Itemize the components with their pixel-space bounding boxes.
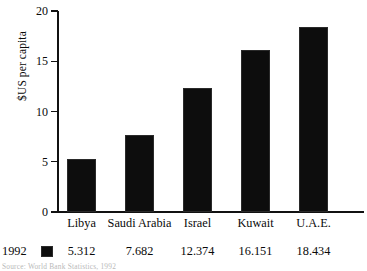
y-tick-0	[51, 211, 58, 212]
category-label-kuwait: Kuwait	[237, 216, 273, 231]
y-tick-5	[51, 161, 58, 162]
category-label-israel: Israel	[184, 216, 211, 231]
y-tick-10	[51, 111, 58, 112]
category-label-u-a-e: U.A.E.	[296, 216, 331, 231]
data-value-libya: 5.312	[68, 244, 96, 259]
source-note: Source: World Bank Statistics, 1992	[2, 262, 116, 271]
bar-u-a-e	[299, 27, 328, 212]
data-value-kuwait: 16.151	[239, 244, 273, 259]
data-value-israel: 12.374	[181, 244, 215, 259]
y-tick-label-5: 5	[0, 156, 48, 168]
bar-kuwait	[241, 50, 270, 212]
bar-saudi-arabia	[125, 135, 154, 212]
y-tick-15	[51, 61, 58, 62]
y-tick-label-0: 0	[0, 206, 48, 218]
category-label-libya: Libya	[67, 216, 96, 231]
legend-year-label: 1992	[2, 244, 27, 259]
y-tick-label-20: 20	[0, 5, 48, 17]
plot-area: $US per capita 05101520 LibyaSaudi Arabi…	[0, 0, 367, 216]
data-value-saudi-arabia: 7.682	[126, 244, 154, 259]
legend-color-swatch	[41, 246, 53, 257]
bar-libya	[67, 159, 96, 212]
y-tick-label-10: 10	[0, 106, 48, 118]
bar-israel	[183, 88, 212, 212]
category-label-saudi-arabia: Saudi Arabia	[108, 216, 172, 231]
y-tick-label-15: 15	[0, 55, 48, 67]
data-value-u-a-e: 18.434	[297, 244, 331, 259]
y-tick-20	[51, 10, 58, 11]
